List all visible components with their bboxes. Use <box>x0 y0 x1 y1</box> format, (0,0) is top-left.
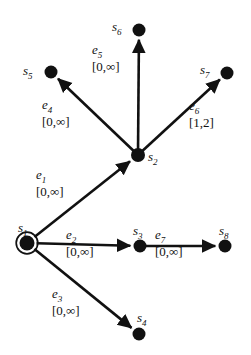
edge-interval-e7: [0,∞] <box>155 245 183 260</box>
edge-interval-e4: [0,∞] <box>42 115 70 130</box>
node-label-s8: s8 <box>219 224 229 241</box>
graph-edge-e5[interactable] <box>138 40 139 150</box>
edge-name-e5: e5 <box>92 43 120 60</box>
node-dot <box>133 24 146 37</box>
node-dot <box>20 236 35 251</box>
edge-interval-e3: [0,∞] <box>52 304 80 319</box>
edge-interval-e1: [0,∞] <box>36 185 64 200</box>
node-label-s5: s5 <box>23 64 33 81</box>
edge-label-e1: e1[0,∞] <box>36 168 64 199</box>
edge-interval-e5: [0,∞] <box>92 60 120 75</box>
edge-label-e3: e3[0,∞] <box>52 287 80 318</box>
edge-label-e2: e2[0,∞] <box>66 228 94 259</box>
edge-name-e6: e6 <box>189 99 214 116</box>
node-label-s6: s6 <box>112 20 122 37</box>
edge-interval-e2: [0,∞] <box>66 245 94 260</box>
edge-name-e1: e1 <box>36 168 64 185</box>
edge-name-e3: e3 <box>52 287 80 304</box>
node-dot <box>219 240 232 253</box>
node-dot <box>45 66 58 79</box>
diagram-canvas: s1s2s3s4s5s6s7s8 e1[0,∞]e2[0,∞]e3[0,∞]e4… <box>0 0 251 355</box>
node-label-s7: s7 <box>200 63 210 80</box>
graph-node-s4[interactable] <box>133 328 146 341</box>
edge-label-e5: e5[0,∞] <box>92 43 120 74</box>
node-dot <box>134 240 147 253</box>
edge-label-e7: e7[0,∞] <box>155 228 183 259</box>
graph-node-s5[interactable] <box>45 66 58 79</box>
node-label-s4: s4 <box>137 311 147 328</box>
edge-name-e4: e4 <box>42 98 70 115</box>
graph-node-s2[interactable] <box>131 148 145 162</box>
node-label-s2: s2 <box>148 150 158 167</box>
graph-node-s7[interactable] <box>221 67 234 80</box>
edge-label-e6: e6[1,2] <box>189 99 214 130</box>
graph-edge-e3[interactable] <box>34 249 131 328</box>
edge-name-e2: e2 <box>66 228 94 245</box>
node-dot <box>133 328 146 341</box>
edge-interval-e6: [1,2] <box>189 116 214 131</box>
node-dot <box>131 148 145 162</box>
graph-node-s6[interactable] <box>133 24 146 37</box>
node-dot <box>221 67 234 80</box>
graph-node-s3[interactable] <box>134 240 147 253</box>
edge-label-e4: e4[0,∞] <box>42 98 70 129</box>
graph-node-s8[interactable] <box>219 240 232 253</box>
edge-name-e7: e7 <box>155 228 183 245</box>
node-label-s1: s1 <box>18 221 28 238</box>
node-label-s3: s3 <box>133 224 143 241</box>
